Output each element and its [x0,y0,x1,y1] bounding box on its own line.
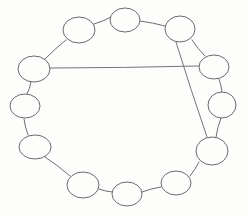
diagonal-chord [176,42,207,137]
horizontal-chord [50,66,199,68]
ring-edge [45,40,66,59]
ring-edge [140,21,165,26]
ring-edge [27,82,31,94]
ring-edge [142,187,161,192]
graph-diagram [0,0,249,215]
figure-canvas [0,0,249,215]
graph-node [199,55,229,79]
graph-nodes-group [10,8,236,206]
ring-edge [45,157,70,176]
graph-node [165,16,195,42]
ring-edges-group [24,17,222,192]
graph-node [161,171,191,195]
chord-edges-group [50,42,207,137]
ring-edge [94,17,111,24]
graph-node [196,137,228,165]
graph-node [67,172,99,198]
graph-node [18,56,50,82]
graph-node [110,8,140,32]
ring-edge [192,40,205,56]
ring-edge [216,118,221,137]
graph-node [112,182,142,206]
ring-edge [190,162,199,176]
ring-edge [99,189,112,192]
graph-node [10,94,40,118]
ring-edge [219,79,222,92]
graph-node [208,92,236,118]
graph-node [19,135,51,159]
graph-node [63,17,95,43]
ring-edge [24,119,28,135]
